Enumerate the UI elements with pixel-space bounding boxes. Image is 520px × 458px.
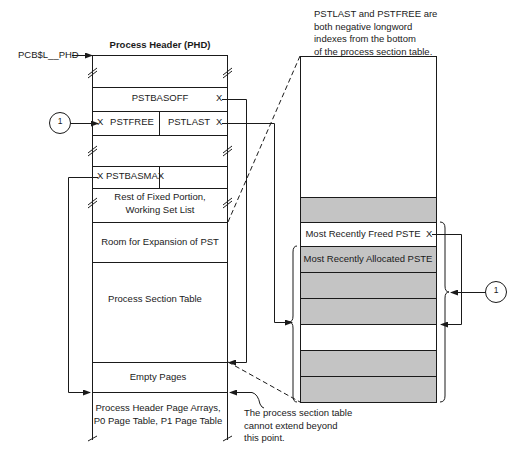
- empty-pages: Empty Pages: [130, 372, 187, 383]
- note-line: The process section table: [244, 407, 352, 420]
- note-line: this point.: [244, 432, 352, 445]
- note-line: of the process section table.: [314, 46, 437, 59]
- bottom-note: The process section table cannot extend …: [244, 407, 352, 445]
- pstlast-link: [222, 124, 292, 323]
- phd-pointer-label: PCB$L__PHD: [18, 50, 79, 61]
- page-arrays-line2: P0 Page Table, P1 Page Table: [94, 416, 223, 427]
- note-line: indexes from the bottom: [314, 33, 437, 46]
- pstbasoff-link: [222, 100, 247, 363]
- rest-fixed-portion-line1: Rest of Fixed Portion,: [114, 192, 205, 203]
- header-title: Process Header (PHD): [110, 40, 211, 51]
- note-line: both negative longword: [314, 21, 437, 34]
- pstbasmax-field: PSTBASMAX: [106, 171, 164, 182]
- allocated-range-brace: [289, 246, 297, 402]
- circle-left-number: 1: [58, 117, 63, 127]
- rest-fixed-portion-line2: Working Set List: [126, 205, 195, 216]
- room-for-expansion: Room for Expansion of PST: [101, 237, 219, 248]
- circle-right-number: 1: [494, 286, 499, 296]
- x-mark-pstfree: X: [97, 117, 103, 128]
- note-line: PSTLAST and PSTFREE are: [314, 8, 437, 21]
- page-arrays-line1: Process Header Page Arrays,: [95, 403, 220, 414]
- diagram-canvas: [0, 0, 520, 458]
- zoom-line-top: [228, 56, 300, 222]
- freed-chain-brace: [440, 222, 449, 402]
- pstbasmax-link: [69, 178, 99, 393]
- most-recently-allocated-pste: Most Recently Allocated PSTE: [304, 254, 433, 265]
- pstbasoff-field: PSTBASOFF: [132, 93, 188, 104]
- x-mark-freed: X: [426, 229, 432, 240]
- most-recently-freed-pste: Most Recently Freed PSTE: [305, 229, 420, 240]
- zoom-line-bottom: [228, 362, 300, 402]
- x-mark-pstlast: X: [216, 117, 222, 128]
- top-right-note: PSTLAST and PSTFREE are both negative lo…: [314, 8, 437, 58]
- process-section-table: Process Section Table: [108, 294, 202, 305]
- pstfree-field: PSTFREE: [110, 117, 154, 128]
- note-line: cannot extend beyond: [244, 420, 352, 433]
- x-mark-pstbasoff: X: [216, 93, 222, 104]
- x-mark-pstbasmax: X: [97, 171, 103, 182]
- pstlast-field: PSTLAST: [168, 117, 210, 128]
